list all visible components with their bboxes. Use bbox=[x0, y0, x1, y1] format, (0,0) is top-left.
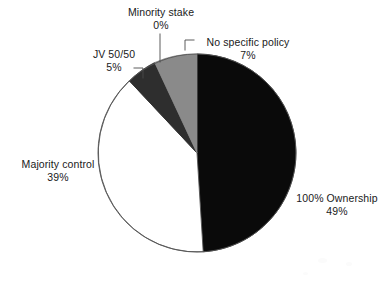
pie-label-100-ownership-value: 49% bbox=[288, 205, 386, 218]
pie-label-minority-stake-name: Minority stake bbox=[119, 6, 203, 19]
pie-label-majority-control-name: Majority control bbox=[12, 158, 104, 171]
pie-label-jv-5050-value: 5% bbox=[80, 61, 148, 74]
pie-label-minority-stake-value: 0% bbox=[119, 19, 203, 32]
pie-label-majority-control-value: 39% bbox=[12, 171, 104, 184]
pie-label-majority-control: Majority control 39% bbox=[12, 158, 104, 185]
pie-slices bbox=[98, 54, 296, 252]
pie-label-100-ownership-name: 100% Ownership bbox=[288, 192, 386, 205]
pie-label-no-specific-policy-value: 7% bbox=[196, 49, 300, 62]
pie-slice-100-ownership[interactable] bbox=[197, 54, 296, 252]
pie-label-minority-stake: Minority stake 0% bbox=[119, 6, 203, 33]
pie-label-jv-5050: JV 50/50 5% bbox=[80, 48, 148, 75]
pie-label-jv-5050-name: JV 50/50 bbox=[80, 48, 148, 61]
pie-label-no-specific-policy-name: No specific policy bbox=[196, 36, 300, 49]
leader-line-no-specific-policy bbox=[185, 40, 194, 50]
pie-chart-figure: Minority stake 0% No specific policy 7% … bbox=[0, 0, 388, 284]
pie-label-100-ownership: 100% Ownership 49% bbox=[288, 192, 386, 219]
pie-label-no-specific-policy: No specific policy 7% bbox=[196, 36, 300, 63]
pie-chart-canvas bbox=[0, 0, 388, 284]
